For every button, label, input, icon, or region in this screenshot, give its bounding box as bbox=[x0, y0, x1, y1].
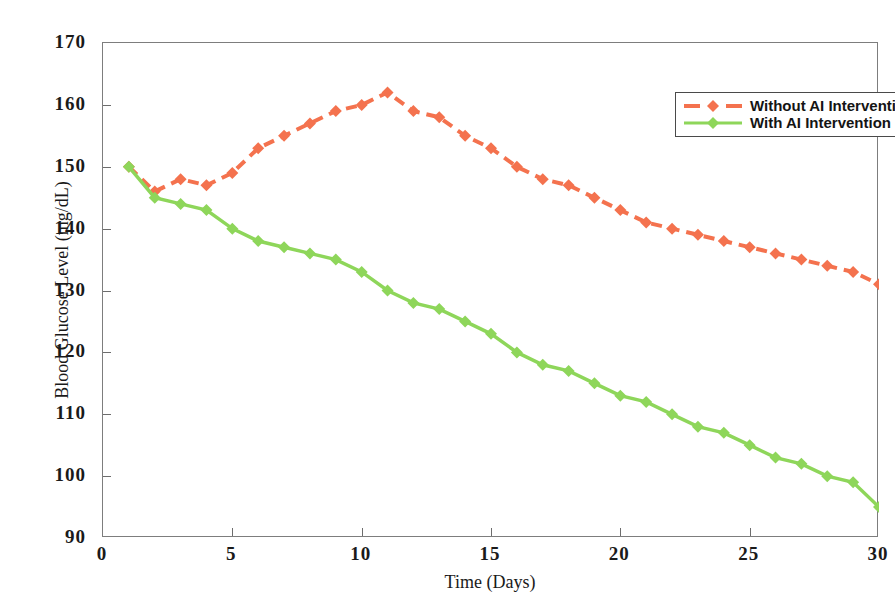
data-point-marker bbox=[459, 315, 471, 327]
x-tick-mark bbox=[232, 528, 233, 536]
data-point-marker bbox=[407, 105, 419, 117]
y-tick-mark bbox=[103, 291, 111, 292]
data-point-marker bbox=[330, 254, 342, 266]
data-point-marker bbox=[407, 297, 419, 309]
data-point-marker bbox=[718, 427, 730, 439]
y-tick-label: 160 bbox=[55, 93, 87, 115]
data-point-marker bbox=[640, 396, 652, 408]
x-tick-label: 10 bbox=[350, 543, 371, 565]
series-line bbox=[129, 167, 879, 507]
x-tick-label: 5 bbox=[226, 543, 237, 565]
x-tick-label: 25 bbox=[738, 543, 759, 565]
data-point-marker bbox=[588, 377, 600, 389]
legend-item-with-ai: With AI Intervention bbox=[682, 114, 895, 131]
x-tick-mark bbox=[620, 528, 621, 536]
x-axis-ticklabels: 051015202530 bbox=[102, 543, 878, 571]
legend-swatch-with-ai bbox=[682, 115, 744, 131]
y-tick-label: 140 bbox=[55, 217, 87, 239]
y-tick-label: 90 bbox=[65, 526, 86, 548]
data-point-marker bbox=[563, 365, 575, 377]
y-tick-mark bbox=[103, 352, 111, 353]
y-tick-mark bbox=[103, 167, 111, 168]
y-tick-label: 170 bbox=[55, 31, 87, 53]
x-tick-mark bbox=[491, 528, 492, 536]
data-point-marker bbox=[692, 421, 704, 433]
x-tick-mark bbox=[750, 528, 751, 536]
data-point-marker bbox=[770, 452, 782, 464]
data-point-marker bbox=[614, 390, 626, 402]
y-axis-ticklabels: 90100110120130140150160170 bbox=[0, 42, 96, 537]
data-point-marker bbox=[821, 470, 833, 482]
data-point-marker bbox=[252, 235, 264, 247]
x-tick-label: 20 bbox=[609, 543, 630, 565]
y-tick-label: 120 bbox=[55, 340, 87, 362]
chart-figure: Blood Glucose Level (mg/dL) 901001101201… bbox=[0, 0, 895, 601]
x-tick-mark bbox=[362, 528, 363, 536]
data-point-marker bbox=[666, 223, 678, 235]
data-point-marker bbox=[795, 254, 807, 266]
y-tick-mark bbox=[103, 105, 111, 106]
y-tick-mark bbox=[103, 414, 111, 415]
data-point-marker bbox=[744, 241, 756, 253]
x-tick-label: 30 bbox=[868, 543, 889, 565]
legend-label-with-ai: With AI Intervention bbox=[750, 114, 891, 131]
y-tick-label: 130 bbox=[55, 279, 87, 301]
data-point-marker bbox=[175, 198, 187, 210]
data-point-marker bbox=[226, 167, 238, 179]
data-point-marker bbox=[847, 266, 859, 278]
data-point-marker bbox=[433, 303, 445, 315]
x-tick-label: 15 bbox=[480, 543, 501, 565]
data-point-marker bbox=[795, 458, 807, 470]
data-point-marker bbox=[356, 99, 368, 111]
plot-area: Without AI Intervention With AI Interven… bbox=[102, 42, 878, 537]
legend: Without AI Intervention With AI Interven… bbox=[675, 92, 895, 137]
data-point-marker bbox=[718, 235, 730, 247]
y-tick-label: 100 bbox=[55, 464, 87, 486]
data-point-marker bbox=[821, 260, 833, 272]
data-point-marker bbox=[304, 247, 316, 259]
y-tick-label: 110 bbox=[56, 402, 86, 424]
y-tick-mark bbox=[103, 476, 111, 477]
data-point-marker bbox=[744, 439, 756, 451]
data-point-marker bbox=[770, 247, 782, 259]
data-point-marker bbox=[873, 278, 879, 290]
data-point-marker bbox=[278, 241, 290, 253]
y-tick-label: 150 bbox=[55, 155, 87, 177]
data-point-marker bbox=[537, 359, 549, 371]
legend-label-without-ai: Without AI Intervention bbox=[750, 97, 895, 114]
x-axis-title: Time (Days) bbox=[102, 572, 878, 593]
y-tick-mark bbox=[103, 229, 111, 230]
series-with-ai bbox=[123, 161, 879, 513]
legend-swatch-without-ai bbox=[682, 98, 744, 114]
data-point-marker bbox=[666, 408, 678, 420]
data-point-marker bbox=[692, 229, 704, 241]
legend-item-without-ai: Without AI Intervention bbox=[682, 97, 895, 114]
x-tick-label: 0 bbox=[97, 543, 108, 565]
